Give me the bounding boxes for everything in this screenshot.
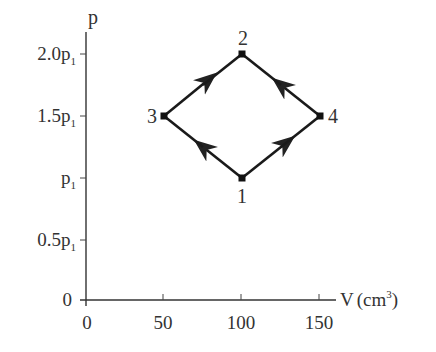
y-tick-0: 0 [63,289,73,310]
path-1-to-3 [203,147,242,178]
x-axis-label: V(cm3) [340,288,398,311]
x-tick-50: 50 [154,312,173,333]
state-points [161,51,324,182]
y-ticks [80,54,86,240]
point-1-marker [239,175,246,182]
path-3-to-2 [164,80,208,116]
pv-diagram: p V(cm3) 2.0p1 1.5p1 p1 0.5p1 0 0 50 100… [0,0,436,352]
y-tick-p1: p1 [61,167,76,191]
y-tick-1.5p1: 1.5p1 [37,105,76,129]
point-label-4: 4 [328,105,338,127]
y-tick-0.5p1: 0.5p1 [37,229,76,253]
path-4-to-2 [281,85,320,116]
point-3-marker [161,113,168,120]
x-ticks [163,294,319,300]
x-tick-150: 150 [305,312,334,333]
point-2-marker [239,51,246,58]
x-tick-0: 0 [82,312,92,333]
x-tick-100: 100 [227,312,256,333]
y-tick-2p1: 2.0p1 [37,43,76,67]
point-label-2: 2 [238,27,248,49]
y-axis-label: p [88,6,98,29]
point-4-marker [317,113,324,120]
path-1-to-4 [242,143,286,178]
cycle-paths [164,54,320,178]
point-label-3: 3 [147,105,157,127]
point-label-1: 1 [237,185,247,207]
